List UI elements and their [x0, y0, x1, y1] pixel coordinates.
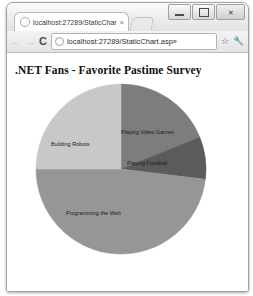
page-viewport: .NET Fans - Favorite Pastime Survey Play…: [7, 53, 248, 291]
pie-graphic: [35, 83, 207, 255]
minimize-icon: [175, 14, 184, 16]
wrench-menu-icon[interactable]: 🔧: [233, 37, 244, 46]
reload-icon[interactable]: C: [39, 36, 47, 47]
minimize-button[interactable]: [168, 4, 191, 20]
pie-slice-label: Programming the Web: [66, 210, 121, 216]
pie-slice-group: [36, 84, 206, 254]
maximize-button[interactable]: [192, 4, 215, 20]
pie-chart: Playing Video GamesPlaying FoosballProgr…: [7, 83, 248, 263]
maximize-icon: [199, 8, 209, 17]
pie-slice: [36, 84, 121, 169]
forward-arrow-icon[interactable]: →: [25, 37, 35, 47]
address-bar[interactable]: localhost:27289/StaticChart.asp»: [51, 33, 217, 50]
tab-staticchart[interactable]: localhost:27289/StaticChar ×: [14, 12, 129, 31]
pie-svg: [35, 83, 207, 255]
window-controls: ✕: [168, 4, 245, 20]
tab-strip: localhost:27289/StaticChar ×: [14, 12, 153, 31]
tab-close-icon[interactable]: ×: [120, 19, 124, 26]
page-info-icon[interactable]: [55, 37, 64, 46]
page-title: .NET Fans - Favorite Pastime Survey: [15, 64, 248, 76]
url-text: localhost:27289/StaticChart.asp»: [67, 37, 177, 46]
title-bar: ✕ localhost:27289/StaticChar ×: [7, 3, 248, 31]
bookmark-star-icon[interactable]: ☆: [221, 37, 229, 46]
new-tab-button[interactable]: [129, 17, 154, 31]
navigation-toolbar: ← → C localhost:27289/StaticChart.asp» ☆…: [7, 31, 248, 53]
pie-slice-label: Playing Foosball: [127, 160, 167, 166]
desktop-background: ✕ localhost:27289/StaticChar × ← → C loc…: [0, 0, 253, 296]
tab-title: localhost:27289/StaticChar: [33, 19, 117, 26]
pie-slice-label: Building Robots: [51, 141, 90, 147]
pie-slice-label: Playing Video Games: [121, 129, 174, 135]
back-arrow-icon[interactable]: ←: [11, 37, 21, 47]
close-button[interactable]: ✕: [216, 4, 245, 20]
close-icon: ✕: [228, 9, 234, 16]
globe-icon: [20, 17, 30, 27]
browser-window: ✕ localhost:27289/StaticChar × ← → C loc…: [6, 2, 249, 292]
